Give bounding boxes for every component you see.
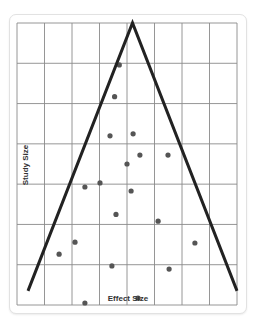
data-point [156, 219, 161, 224]
data-point [129, 188, 134, 193]
x-axis-label: Effect Size [108, 294, 149, 303]
data-point [112, 94, 117, 99]
data-point [57, 252, 62, 257]
data-point [72, 240, 77, 245]
data-point [167, 267, 172, 272]
data-point [82, 300, 87, 305]
y-axis-label: Study Size [21, 144, 30, 185]
funnel-plot: Effect Size Study Size [0, 0, 257, 329]
data-point [107, 133, 112, 138]
data-point [82, 184, 87, 189]
data-point [137, 153, 142, 158]
data-point [113, 212, 118, 217]
data-point [109, 263, 114, 268]
data-point [131, 131, 136, 136]
data-point [97, 180, 102, 185]
data-point [165, 153, 170, 158]
data-point [124, 161, 129, 166]
data-point [192, 240, 197, 245]
